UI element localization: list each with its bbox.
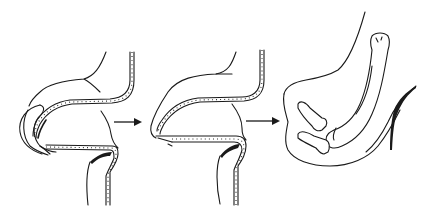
- stage-2-figure: [151, 50, 264, 205]
- arrow-1-icon: [114, 118, 142, 126]
- stage-3-figure: [283, 12, 416, 166]
- diagram-canvas: [0, 0, 429, 216]
- arrow-2-icon: [246, 117, 280, 125]
- diagram-svg: [0, 0, 429, 216]
- stage-1-figure: [20, 52, 134, 205]
